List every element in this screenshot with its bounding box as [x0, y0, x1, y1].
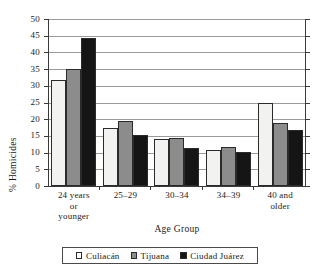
right-axis-tick	[306, 52, 310, 53]
x-axis-tick-label: 40 andolder	[254, 190, 306, 222]
right-axis-tick	[306, 186, 310, 187]
right-axis-tick	[306, 69, 310, 70]
x-axis-tick-label-line: older	[254, 201, 306, 212]
right-axis-tick	[306, 119, 310, 120]
bar	[51, 80, 66, 186]
legend-label: Tijuana	[141, 251, 170, 261]
y-axis-tick-label: 30	[0, 81, 40, 90]
legend-swatch-icon	[180, 252, 187, 259]
bar	[66, 69, 81, 186]
bar	[273, 123, 288, 186]
bar-groups	[48, 19, 306, 186]
x-axis-tick-label: 25–29	[100, 190, 152, 222]
y-axis-title: % Homicides	[8, 92, 18, 192]
bar-group	[151, 19, 203, 186]
y-axis-tick-label: 45	[0, 31, 40, 40]
right-axis-tick	[306, 86, 310, 87]
bar	[206, 150, 221, 186]
bar	[133, 135, 148, 186]
legend-label: Ciudad Juárez	[190, 251, 244, 261]
bar-group	[48, 19, 100, 186]
y-axis-tick-label: 50	[0, 15, 40, 24]
bar	[221, 147, 236, 186]
x-axis-tick-labels: 24 yearsoryounger25–2930–3434–3940 andol…	[48, 190, 306, 222]
bar-group	[100, 19, 152, 186]
bar	[236, 152, 251, 186]
x-axis-tick-label-line: or	[48, 201, 100, 212]
right-axis-tick	[306, 169, 310, 170]
y-axis-tick-label: 10	[0, 148, 40, 157]
y-axis-tick-label: 20	[0, 115, 40, 124]
homicides-by-age-group-bar-chart: % Homicides 05101520253035404550 24 year…	[0, 0, 322, 274]
right-axis-tick	[306, 36, 310, 37]
legend-swatch-icon	[131, 252, 138, 259]
legend-label: Culiacán	[86, 251, 120, 261]
y-axis-tick-label: 40	[0, 48, 40, 57]
chart-legend: CuliacánTijuanaCiudad Juárez	[62, 247, 258, 264]
right-axis-tick	[306, 19, 310, 20]
bar	[169, 138, 184, 186]
bar	[81, 38, 96, 186]
bar	[288, 130, 303, 186]
y-axis-tick-label: 25	[0, 98, 40, 107]
x-axis-tick-label-line: 30–34	[151, 190, 203, 201]
bar	[184, 148, 199, 186]
y-axis-tick-label: 35	[0, 65, 40, 74]
x-axis-tick-label: 30–34	[151, 190, 203, 222]
x-axis-tick-label-line: 25–29	[100, 190, 152, 201]
x-axis-tick-label-line: 34–39	[203, 190, 255, 201]
y-axis-tick-label: 5	[0, 165, 40, 174]
x-axis-tick-label-line: younger	[48, 211, 100, 222]
x-axis-tick-label: 24 yearsoryounger	[48, 190, 100, 222]
bar-group	[203, 19, 255, 186]
legend-swatch-icon	[76, 252, 83, 259]
bar	[154, 139, 169, 186]
bar	[103, 128, 118, 186]
legend-item: Tijuana	[131, 251, 170, 261]
x-axis-title: Age Group	[48, 224, 306, 234]
x-axis-tick-label-line: 40 and	[254, 190, 306, 201]
y-axis-tick-label: 15	[0, 131, 40, 140]
bar	[118, 121, 133, 186]
right-axis-tick	[306, 136, 310, 137]
right-axis-tick	[306, 153, 310, 154]
legend-item: Ciudad Juárez	[180, 251, 244, 261]
legend-item: Culiacán	[76, 251, 120, 261]
x-axis-tick-label-line: 24 years	[48, 190, 100, 201]
y-axis-tick-label: 0	[0, 182, 40, 191]
x-axis-line	[48, 186, 306, 187]
bar-group	[254, 19, 306, 186]
x-axis-tick-label: 34–39	[203, 190, 255, 222]
right-axis-tick	[306, 103, 310, 104]
bar	[258, 103, 273, 186]
